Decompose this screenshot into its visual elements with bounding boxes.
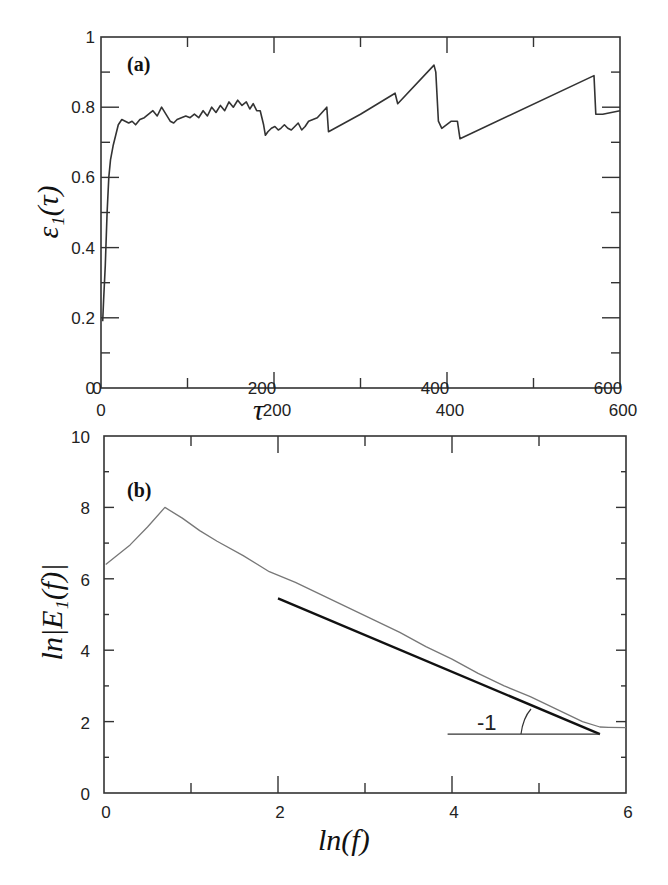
panel-label-a: (a) <box>127 53 150 76</box>
y-tick-label-a: 1 <box>86 28 95 47</box>
y-tick-label-b: 6 <box>81 571 90 590</box>
x-axis-title-b: ln(f) <box>318 823 370 857</box>
x-axis-title-a: τ <box>253 393 265 426</box>
x-tick-label-b: 4 <box>449 803 458 822</box>
y-tick-label-b: 8 <box>81 499 90 518</box>
y-tick-label-a: 0.2 <box>71 309 95 328</box>
y-tick-label-a: 0.8 <box>71 98 95 117</box>
y-axis-title-a: ε₁(τ) <box>31 186 65 239</box>
y-tick-label-b: 0 <box>81 785 90 804</box>
x-tick-label-a: 200 <box>263 401 291 420</box>
x-tick-label-b: 2 <box>275 803 284 822</box>
slope-angle-arc <box>521 709 531 734</box>
y-axis-title-b: ln|E₁(f)| <box>35 564 69 661</box>
panel-label-b: (b) <box>127 479 151 502</box>
y-tick-label-b: 2 <box>81 714 90 733</box>
panel-a: 00.20.40.60.8100200200400400600600 (a) τ… <box>31 28 637 426</box>
x-tick-label-a-overlay: 600 <box>594 379 622 398</box>
tick-labels-b: 02468100246 <box>71 428 633 822</box>
x-tick-label-b: 0 <box>101 803 110 822</box>
x-tick-label-a: 600 <box>609 401 637 420</box>
slope-fit-line <box>278 598 600 734</box>
figure: 00.20.40.60.8100200200400400600600 (a) τ… <box>0 0 668 885</box>
y-tick-label-b: 10 <box>71 428 90 447</box>
plot-frame-b <box>104 436 626 793</box>
y-tick-label-a: 0.4 <box>71 239 95 258</box>
x-tick-label-a-overlay: 0 <box>92 379 101 398</box>
x-tick-label-a-overlay: 400 <box>421 379 449 398</box>
y-tick-label-a: 0.6 <box>71 168 95 187</box>
axis-ticks-a <box>101 37 620 388</box>
spectrum-curve <box>106 507 626 727</box>
plot-frame-a <box>101 37 620 388</box>
x-tick-label-b: 6 <box>623 803 632 822</box>
x-tick-label-a: 0 <box>96 401 105 420</box>
x-tick-label-a: 400 <box>436 401 464 420</box>
panel-b: 02468100246 -1 (b) ln(f) ln|E₁(f)| <box>35 428 633 857</box>
y-tick-label-b: 4 <box>81 642 90 661</box>
slope-annotation: -1 <box>477 710 497 735</box>
tick-labels-a: 00.20.40.60.8100200200400400600600 <box>71 28 637 420</box>
axis-ticks-b <box>104 436 626 793</box>
epsilon-curve <box>103 65 620 321</box>
